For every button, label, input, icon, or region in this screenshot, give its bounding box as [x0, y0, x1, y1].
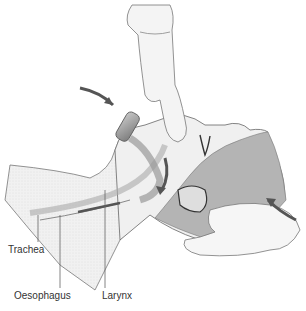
illustration-drawing — [0, 0, 306, 311]
label-larynx: Larynx — [102, 290, 132, 301]
label-oesophagus: Oesophagus — [14, 290, 71, 301]
label-trachea: Trachea — [8, 244, 44, 255]
airway-illustration: Trachea Oesophagus Larynx — [0, 0, 306, 311]
